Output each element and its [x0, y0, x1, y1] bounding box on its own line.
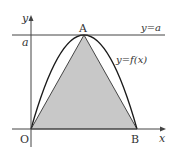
- line-y-equals-a-label: y=a: [140, 22, 161, 33]
- x-axis-arrow-icon: [160, 127, 166, 132]
- graph-canvas: y a A y=a y=f(x) O B x: [0, 0, 179, 152]
- a-tick-label: a: [22, 36, 29, 49]
- point-O-label: O: [20, 133, 29, 146]
- curve-label: y=f(x): [115, 54, 147, 65]
- y-axis-label: y: [21, 12, 29, 25]
- function-graph-figure: y a A y=a y=f(x) O B x: [0, 0, 179, 152]
- x-axis-label: x: [159, 132, 166, 145]
- point-B-label: B: [131, 133, 139, 146]
- y-axis-arrow-icon: [29, 15, 34, 21]
- point-A-label: A: [78, 22, 88, 35]
